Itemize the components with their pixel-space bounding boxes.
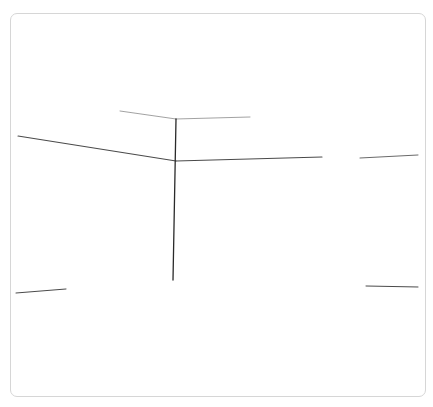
ceiling-left-edge-stroke bbox=[120, 111, 176, 119]
floor-right-edge-stroke bbox=[366, 286, 418, 287]
wall-left-edge-stroke bbox=[18, 136, 176, 161]
floor-left-edge-stroke bbox=[16, 289, 66, 293]
far-right-edge-stroke bbox=[360, 155, 418, 158]
wall-right-edge-stroke bbox=[176, 157, 322, 161]
corner-vertical-stroke bbox=[173, 119, 176, 280]
ceiling-right-edge-stroke bbox=[176, 117, 250, 119]
stroke-layer bbox=[16, 111, 418, 293]
sketch-canvas[interactable] bbox=[0, 0, 433, 407]
